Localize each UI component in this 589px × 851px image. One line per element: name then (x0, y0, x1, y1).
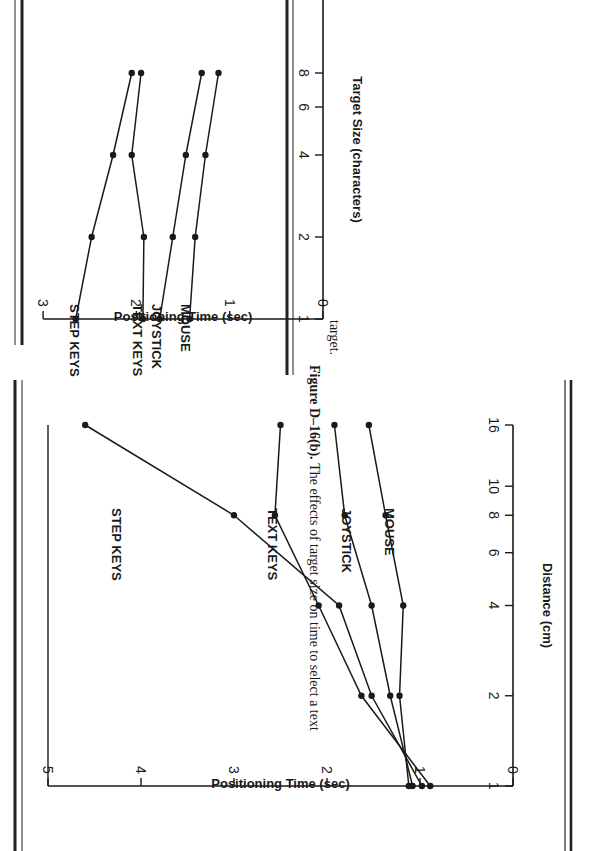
caption-text: The effects of target size on time to se… (307, 463, 322, 731)
x-tick-label: 4 (296, 151, 312, 159)
series-label: TEXT KEYS (265, 508, 280, 581)
series-label: MOUSE (178, 304, 193, 352)
rotated-page: 012345124681016Distance (cm)Positioning … (0, 0, 589, 851)
series-label: STEP KEYS (67, 304, 82, 377)
y-tick-label: 3 (226, 766, 242, 774)
series-line-joystick (160, 73, 202, 319)
data-point (88, 234, 94, 240)
x-tick-label: 6 (296, 103, 312, 111)
x-tick-label: 2 (486, 692, 502, 700)
x-tick-label: 1 (486, 782, 502, 790)
series-label: MOUSE (382, 508, 397, 556)
series-line-text-keys (275, 425, 430, 786)
x-tick-label: 1 (296, 315, 312, 323)
y-tick-label: 1 (222, 299, 238, 307)
data-point (387, 693, 393, 699)
data-point (129, 152, 135, 158)
y-tick-label: 2 (319, 766, 335, 774)
x-tick-label: 16 (486, 417, 502, 433)
x-tick-label: 8 (486, 511, 502, 519)
data-point (368, 602, 374, 608)
data-point (183, 152, 189, 158)
data-point (277, 422, 283, 428)
y-axis-label: Positioning Time (sec) (211, 776, 349, 791)
x-axis-label: Distance (cm) (540, 563, 555, 648)
data-point (400, 602, 406, 608)
data-point (336, 602, 342, 608)
x-tick-label: 8 (296, 69, 312, 77)
series-label: TEXT KEYS (130, 304, 145, 377)
y-tick-label: 3 (35, 299, 51, 307)
figure-caption-line2: target. (327, 320, 342, 355)
x-tick-label: 4 (486, 602, 502, 610)
data-point (82, 422, 88, 428)
data-point (406, 783, 412, 789)
data-point (110, 152, 116, 158)
series-label: JOYSTICK (339, 508, 354, 574)
series-label: STEP KEYS (109, 508, 124, 581)
series-line-step-keys (76, 73, 132, 319)
data-point (141, 234, 147, 240)
caption-label: Figure D–16(b). (306, 365, 322, 463)
data-point (170, 234, 176, 240)
figure-caption: Figure D–16(b). The effects of target si… (306, 365, 322, 731)
series-line-text-keys (132, 73, 144, 319)
data-point (138, 70, 144, 76)
data-point (368, 693, 374, 699)
data-point (366, 422, 372, 428)
y-tick-label: 0 (315, 299, 331, 307)
data-point (202, 152, 208, 158)
y-tick-label: 0 (505, 766, 521, 774)
data-point (427, 783, 433, 789)
data-point (129, 70, 135, 76)
data-point (396, 693, 402, 699)
data-point (419, 783, 425, 789)
x-tick-label: 6 (486, 549, 502, 557)
data-point (192, 234, 198, 240)
y-tick-label: 5 (40, 766, 56, 774)
data-point (199, 70, 205, 76)
data-point (215, 70, 221, 76)
y-tick-label: 4 (133, 766, 149, 774)
x-tick-label: 10 (486, 478, 502, 494)
x-tick-label: 2 (296, 233, 312, 241)
data-point (231, 512, 237, 518)
figures-canvas: 012345124681016Distance (cm)Positioning … (0, 0, 589, 851)
series-label: JOYSTICK (149, 304, 164, 370)
data-point (358, 693, 364, 699)
data-point (331, 422, 337, 428)
x-axis-label: Target Size (characters) (350, 76, 365, 222)
